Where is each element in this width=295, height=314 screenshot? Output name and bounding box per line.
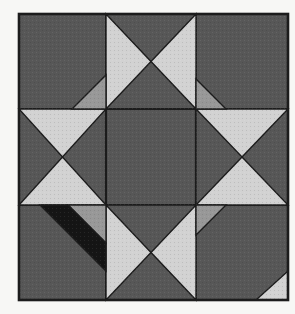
quilt-block <box>19 14 288 300</box>
scanned-page <box>0 0 295 314</box>
quilt-block-svg <box>0 0 295 314</box>
halftone-texture-overlay <box>19 14 288 300</box>
